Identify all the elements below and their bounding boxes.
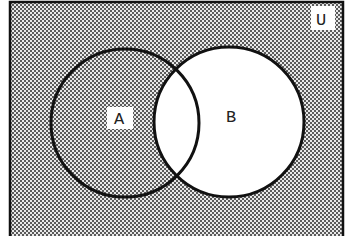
venn-diagram: U A B [0, 0, 347, 236]
set-a-label: A [114, 110, 125, 129]
universe-label: U [316, 11, 326, 30]
set-b-label: B [226, 108, 236, 127]
